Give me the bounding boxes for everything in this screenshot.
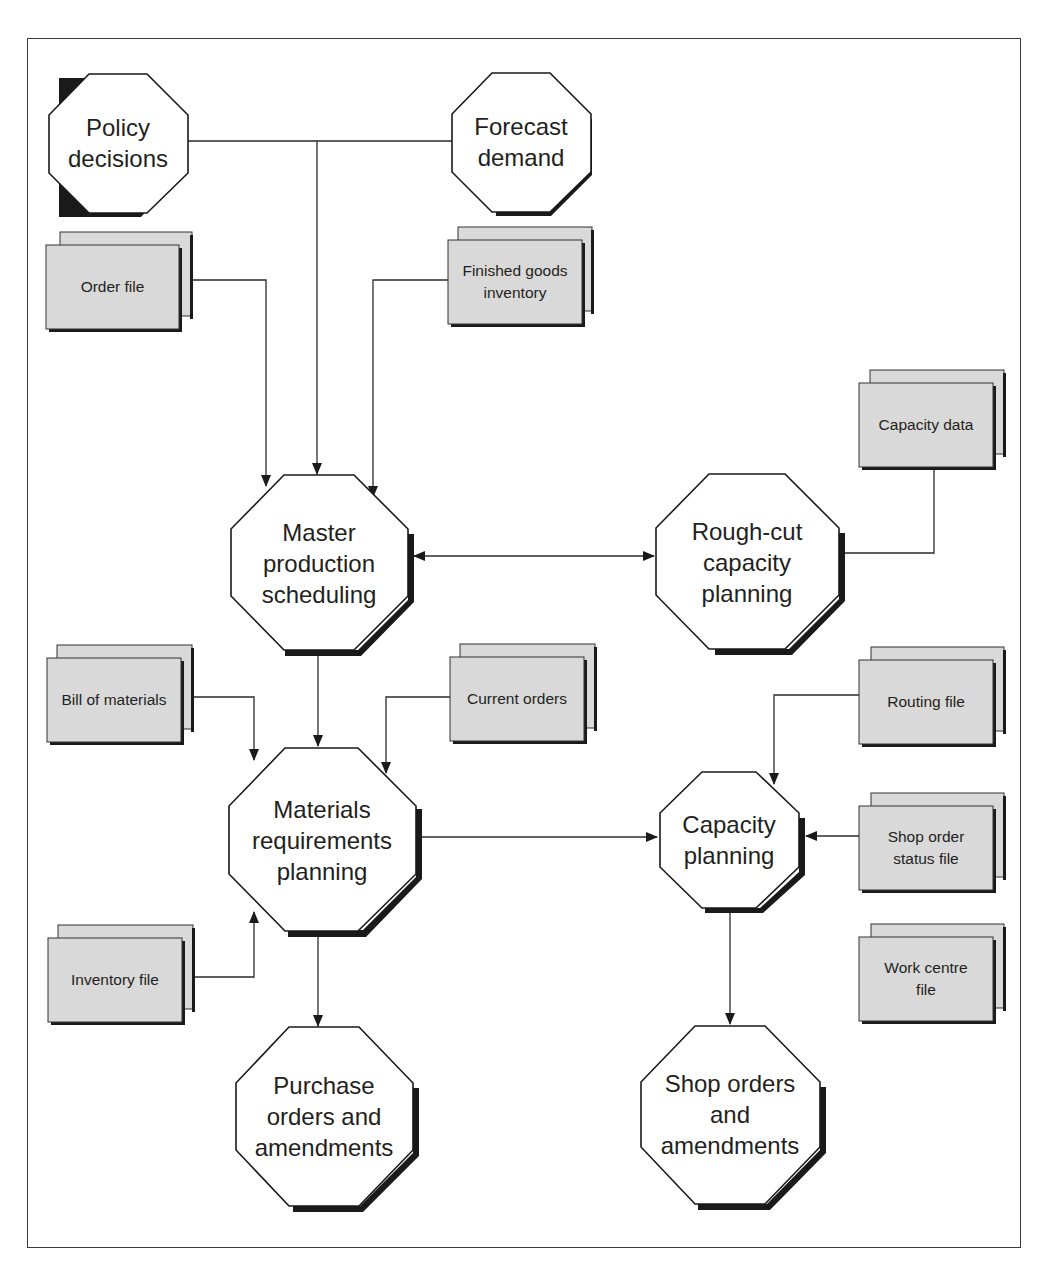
process-purchase-orders-and-amendments: Purchase orders and amendments [235, 1026, 419, 1212]
edge-orderfile-mps [192, 280, 266, 486]
process-materials-requirements-planning: Materials requirements planning [228, 747, 422, 939]
edge-policy-forecast-mps [187, 141, 452, 474]
process-label: Policy decisions [48, 73, 188, 213]
file-bill-of-materials: Bill of materials [47, 645, 195, 747]
process-label: Shop orders and amendments [640, 1025, 820, 1203]
edge-fg-mps [373, 280, 448, 497]
process-capacity-planning: Capacity planning [659, 771, 805, 915]
process-rough-cut-capacity-planning: Rough-cut capacity planning [655, 473, 845, 657]
file-label: Capacity data [859, 383, 993, 467]
file-label: Inventory file [48, 938, 182, 1022]
process-policy-decisions: Policy decisions [48, 73, 188, 217]
process-shop-orders-and-amendments: Shop orders and amendments [640, 1025, 826, 1210]
file-inventory-file: Inventory file [48, 925, 196, 1027]
file-label: Routing file [859, 660, 993, 744]
file-work-centre-file: Work centre file [859, 924, 1007, 1026]
process-label: Capacity planning [659, 771, 799, 909]
file-label: Shop order status file [859, 806, 993, 890]
file-routing-file: Routing file [859, 647, 1007, 749]
process-label: Forecast demand [451, 72, 591, 212]
process-label: Rough-cut capacity planning [655, 473, 839, 651]
file-label: Order file [46, 245, 179, 329]
process-label: Master production scheduling [230, 474, 408, 652]
process-label: Materials requirements planning [228, 747, 416, 933]
file-label: Work centre file [859, 937, 993, 1021]
process-master-production-scheduling: Master production scheduling [230, 474, 414, 658]
file-label: Bill of materials [47, 658, 181, 742]
process-forecast-demand: Forecast demand [451, 72, 591, 216]
file-current-orders: Current orders [450, 644, 598, 746]
file-order-file: Order file [46, 232, 194, 334]
file-label: Current orders [450, 657, 584, 741]
file-capacity-data: Capacity data [859, 370, 1007, 472]
file-shop-order-status-file: Shop order status file [859, 793, 1007, 895]
file-label: Finished goods inventory [448, 240, 582, 324]
edge-capdata-rccp [842, 470, 934, 553]
process-label: Purchase orders and amendments [235, 1026, 413, 1206]
file-finished-goods-inventory: Finished goods inventory [448, 227, 596, 329]
